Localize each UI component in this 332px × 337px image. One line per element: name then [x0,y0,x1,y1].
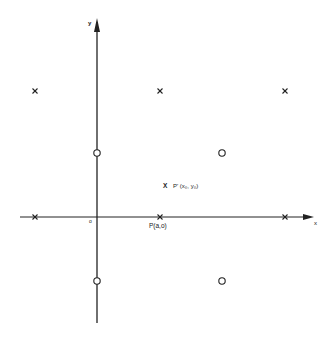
point-p-label: P(a,o) [149,222,167,230]
circle-mark [94,278,100,284]
cross-mark [283,89,288,94]
circle-mark [219,278,225,284]
cross-mark [158,89,163,94]
x-axis-label: x [314,220,317,226]
y-axis-arrow-icon [94,18,100,32]
circle-mark [94,150,100,156]
cross-mark [33,89,38,94]
x-axis-arrow-icon [303,214,314,220]
point-p-prime-marker: X [163,182,168,189]
y-axis-label: y [88,20,92,26]
point-p-prime-label: P' (x₀, y₀) [173,183,198,189]
circle-mark [219,150,225,156]
lattice-diagram: x y o P(a,o) X P' (x₀, y₀) [0,0,332,337]
origin-label: o [89,218,92,224]
